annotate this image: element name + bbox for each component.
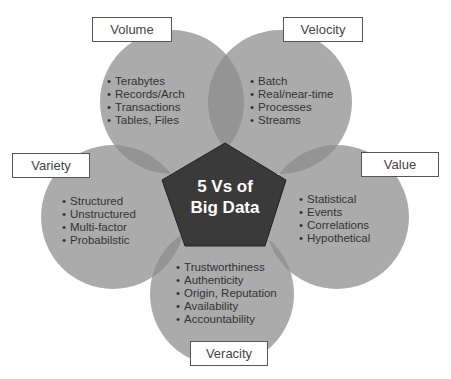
- list-item: Authenticity: [176, 274, 277, 287]
- list-item: Events: [299, 206, 370, 219]
- list-item: Real/near-time: [250, 88, 333, 101]
- list-item: Batch: [250, 75, 333, 88]
- list-item: Structured: [62, 195, 136, 208]
- center-title-line2: Big Data: [170, 197, 280, 218]
- velocity-label-text: Velocity: [301, 22, 346, 37]
- value-list: Statistical Events Correlations Hypothet…: [299, 193, 370, 245]
- veracity-label: Veracity: [190, 341, 268, 366]
- list-item: Streams: [250, 114, 333, 127]
- variety-label-text: Variety: [31, 158, 71, 173]
- list-item: Statistical: [299, 193, 370, 206]
- value-label-text: Value: [384, 157, 416, 172]
- list-item: Transactions: [107, 101, 185, 114]
- list-item: Records/Arch: [107, 88, 185, 101]
- volume-list: Terabytes Records/Arch Transactions Tabl…: [107, 75, 185, 127]
- velocity-label: Velocity: [283, 17, 363, 42]
- list-item: Probabilstic: [62, 234, 136, 247]
- list-item: Origin, Reputation: [176, 287, 277, 300]
- list-item: Hypothetical: [299, 232, 370, 245]
- variety-list: Structured Unstructured Multi-factor Pro…: [62, 195, 136, 247]
- list-item: Processes: [250, 101, 333, 114]
- variety-label: Variety: [12, 153, 90, 178]
- velocity-list: Batch Real/near-time Processes Streams: [250, 75, 333, 127]
- volume-label-text: Volume: [110, 22, 153, 37]
- list-item: Unstructured: [62, 208, 136, 221]
- list-item: Accountability: [176, 313, 277, 326]
- volume-label: Volume: [92, 17, 172, 42]
- list-item: Availability: [176, 300, 277, 313]
- list-item: Trustworthiness: [176, 261, 277, 274]
- center-title: 5 Vs of Big Data: [170, 176, 280, 218]
- veracity-list: Trustworthiness Authenticity Origin, Rep…: [176, 261, 277, 326]
- list-item: Terabytes: [107, 75, 185, 88]
- center-title-line1: 5 Vs of: [170, 176, 280, 197]
- veracity-label-text: Veracity: [206, 346, 252, 361]
- list-item: Correlations: [299, 219, 370, 232]
- list-item: Multi-factor: [62, 221, 136, 234]
- list-item: Tables, Files: [107, 114, 185, 127]
- value-label: Value: [361, 152, 439, 177]
